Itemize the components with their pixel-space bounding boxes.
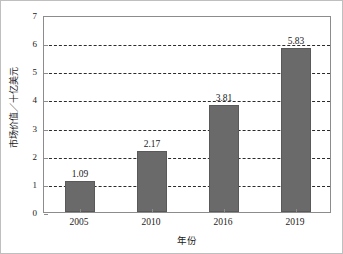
y-tick-mark: [44, 158, 48, 159]
chart-figure: 市场价值／十亿美元 01234567 1.092.173.815.83 2005…: [0, 0, 343, 254]
y-tick-mark: [44, 186, 48, 187]
x-tick-label: 2010: [126, 217, 176, 227]
bar-value-label: 5.83: [271, 37, 321, 47]
y-tick-label: 2: [7, 152, 37, 161]
y-tick-mark: [44, 101, 48, 102]
bar: [209, 105, 239, 212]
y-axis-title-text: 市场价值／十亿美元: [7, 67, 20, 148]
y-tick-label: 7: [7, 12, 37, 21]
x-tick-mark: [296, 209, 297, 212]
y-tick-mark: [44, 130, 48, 131]
bar-value-label: 3.81: [199, 94, 249, 104]
y-tick-label: 5: [7, 68, 37, 77]
y-tick-mark: [44, 45, 48, 46]
x-tick-label: 2019: [270, 217, 320, 227]
x-tick-mark: [152, 209, 153, 212]
y-tick-mark: [44, 214, 48, 215]
x-tick-mark: [80, 209, 81, 212]
y-tick-label: 4: [7, 96, 37, 105]
bar: [65, 181, 95, 212]
y-tick-label: 6: [7, 40, 37, 49]
bar: [137, 151, 167, 212]
bar-value-label: 1.09: [55, 170, 105, 180]
x-tick-mark: [224, 209, 225, 212]
x-tick-label: 2016: [198, 217, 248, 227]
plot-area: 1.092.173.815.83: [43, 16, 331, 213]
bar: [281, 48, 311, 212]
bar-value-label: 2.17: [127, 140, 177, 150]
x-tick-label: 2005: [54, 217, 104, 227]
y-tick-label: 0: [7, 209, 37, 218]
y-tick-label: 1: [7, 180, 37, 189]
y-tick-label: 3: [7, 124, 37, 133]
y-tick-mark: [44, 73, 48, 74]
x-axis-title: 年份: [43, 233, 331, 247]
